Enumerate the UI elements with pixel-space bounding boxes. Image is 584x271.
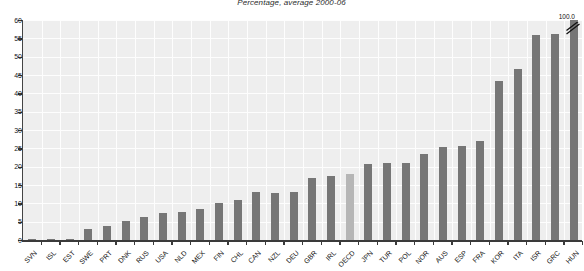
gridline-vertical	[359, 20, 360, 240]
y-tick-label: 5	[6, 218, 22, 225]
y-tick-label: 30	[6, 127, 22, 134]
y-tick-label: 35	[6, 108, 22, 115]
bar-prt	[103, 226, 111, 240]
gridline-vertical	[340, 20, 341, 240]
gridline-vertical	[98, 20, 99, 240]
x-tick-mark	[115, 241, 116, 245]
x-tick-mark	[414, 241, 415, 245]
gridline-vertical	[191, 20, 192, 240]
gridline-vertical	[42, 20, 43, 240]
gridline-vertical	[284, 20, 285, 240]
gridline-vertical	[452, 20, 453, 240]
x-tick-mark	[545, 241, 546, 245]
bar-dnk	[122, 221, 130, 240]
x-tick-mark	[507, 241, 508, 245]
x-tick-mark	[395, 241, 396, 245]
gridline-vertical	[378, 20, 379, 240]
gridline-vertical	[396, 20, 397, 240]
bar-rus	[140, 217, 148, 240]
bar-fra	[476, 141, 484, 240]
gridline-vertical	[135, 20, 136, 240]
axis-break-icon	[565, 22, 581, 36]
x-tick-mark	[321, 241, 322, 245]
y-tick-label: 25	[6, 145, 22, 152]
bar-nor	[420, 154, 428, 240]
y-tick-label: 55	[6, 35, 22, 42]
gridline-vertical	[490, 20, 491, 240]
x-tick-mark	[433, 241, 434, 245]
x-tick-mark	[41, 241, 42, 245]
gridline-vertical	[266, 20, 267, 240]
gridline-vertical	[527, 20, 528, 240]
bar-jpn	[364, 164, 372, 240]
bar-deu	[290, 192, 298, 240]
gridline-vertical	[564, 20, 565, 240]
y-tick-label: 45	[6, 72, 22, 79]
bar-aus	[439, 147, 447, 240]
bar-swe	[84, 229, 92, 240]
bar-tur	[383, 163, 391, 240]
y-tick-label: 15	[6, 182, 22, 189]
bar-hun	[570, 20, 578, 240]
gridline-horizontal	[23, 75, 582, 76]
x-tick-mark	[489, 241, 490, 245]
gridline-vertical	[247, 20, 248, 240]
x-tick-mark	[526, 241, 527, 245]
gridline-vertical	[303, 20, 304, 240]
gridline-vertical	[415, 20, 416, 240]
bar-mex	[196, 209, 204, 240]
gridline-vertical	[434, 20, 435, 240]
x-tick-mark	[582, 241, 583, 245]
gridline-horizontal	[23, 20, 582, 21]
x-tick-mark	[283, 241, 284, 245]
x-tick-mark	[209, 241, 210, 245]
chart-title: Percentage, average 2000-06	[0, 0, 583, 8]
x-tick-mark	[265, 241, 266, 245]
gridline-horizontal	[23, 57, 582, 58]
bar-chl	[234, 200, 242, 240]
y-tick-label: 60	[6, 17, 22, 24]
x-tick-mark	[302, 241, 303, 245]
bar-grc	[551, 34, 559, 240]
gridline-vertical	[546, 20, 547, 240]
x-tick-mark	[246, 241, 247, 245]
bar-kor	[495, 81, 503, 240]
bar-oecd	[346, 174, 354, 240]
x-tick-mark	[470, 241, 471, 245]
gridline-horizontal	[23, 38, 582, 39]
bar-fin	[215, 203, 223, 240]
bar-irl	[327, 176, 335, 240]
bar-isr	[532, 35, 540, 240]
x-tick-mark	[97, 241, 98, 245]
bar-ita	[514, 69, 522, 240]
x-tick-mark	[59, 241, 60, 245]
x-tick-mark	[451, 241, 452, 245]
x-tick-mark	[190, 241, 191, 245]
x-tick-mark	[78, 241, 79, 245]
bar-esp	[458, 146, 466, 240]
y-tick-label: 20	[6, 163, 22, 170]
gridline-vertical	[116, 20, 117, 240]
y-tick-label: 0	[6, 237, 22, 244]
bar-pol	[402, 163, 410, 240]
gridline-vertical	[60, 20, 61, 240]
gridline-vertical	[508, 20, 509, 240]
x-tick-mark	[339, 241, 340, 245]
gridline-vertical	[172, 20, 173, 240]
gridline-vertical	[210, 20, 211, 240]
x-tick-mark	[227, 241, 228, 245]
y-tick-label: 50	[6, 53, 22, 60]
truncated-bar-value-label: 100.0	[559, 13, 575, 20]
x-tick-mark	[563, 241, 564, 245]
y-tick-label: 10	[6, 200, 22, 207]
plot-area	[22, 20, 582, 240]
x-tick-mark	[153, 241, 154, 245]
x-tick-mark	[134, 241, 135, 245]
gridline-vertical	[79, 20, 80, 240]
bar-nld	[178, 212, 186, 240]
bar-gbr	[308, 178, 316, 240]
x-tick-mark	[377, 241, 378, 245]
gridline-vertical	[322, 20, 323, 240]
x-tick-mark	[358, 241, 359, 245]
